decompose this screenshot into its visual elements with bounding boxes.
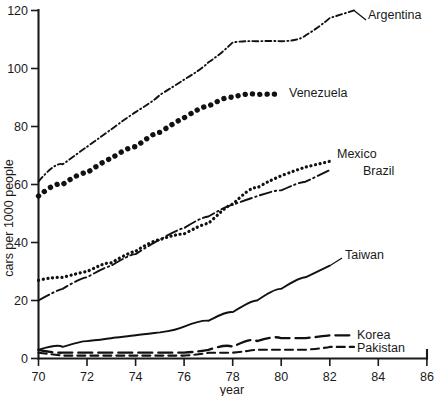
x-tick-label-82: 82: [323, 370, 337, 384]
series-line-brazil: [39, 170, 330, 300]
series-label-argentina: Argentina: [368, 8, 422, 22]
leader-line-argentina: [354, 10, 366, 20]
series-line-mexico: [39, 161, 330, 280]
series-label-korea: Korea: [357, 328, 390, 342]
y-axis-title: cars per 1000 people: [2, 159, 16, 276]
x-tick-label-86: 86: [420, 370, 434, 384]
y-tick-label-100: 100: [7, 62, 28, 76]
chart-container: 120 100 80 60 40 20 0 70 72 74 76: [0, 0, 445, 396]
x-ticks-group: 70 72 74 76 78 80 82 84 86: [32, 359, 434, 385]
x-tick-label-84: 84: [371, 370, 385, 384]
x-tick-label-72: 72: [80, 370, 94, 384]
x-tick-label-74: 74: [129, 370, 143, 384]
x-tick-label-76: 76: [177, 370, 191, 384]
series-label-pakistan: Pakistan: [357, 341, 405, 355]
y-tick-label-20: 20: [14, 294, 28, 308]
series-label-brazil: Brazil: [363, 164, 394, 178]
series-labels-group: Argentina Venezuela Mexico Brazil Taiwan…: [289, 8, 422, 355]
chart-svg: 120 100 80 60 40 20 0 70 72 74 76: [0, 0, 445, 396]
y-tick-label-120: 120: [7, 4, 28, 18]
series-line-venezuela: [39, 94, 282, 196]
series-group: [39, 10, 355, 355]
x-tick-label-80: 80: [274, 370, 288, 384]
y-tick-label-80: 80: [14, 120, 28, 134]
x-tick-label-78: 78: [226, 370, 240, 384]
axes-group: [39, 10, 428, 359]
x-tick-label-70: 70: [32, 370, 46, 384]
y-tick-label-0: 0: [21, 352, 28, 366]
y-tick-label-60: 60: [14, 178, 28, 192]
series-line-pakistan: [39, 347, 355, 356]
series-label-mexico: Mexico: [337, 147, 377, 161]
series-label-taiwan: Taiwan: [345, 248, 384, 262]
leader-line-taiwan: [330, 258, 342, 266]
series-label-venezuela: Venezuela: [289, 86, 347, 100]
y-tick-label-40: 40: [14, 236, 28, 250]
x-axis-title: year: [220, 383, 244, 396]
leader-lines-group: [330, 10, 366, 265]
